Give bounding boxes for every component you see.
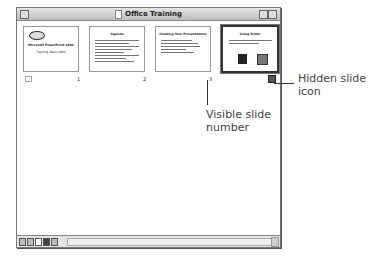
slide-number: 2 (143, 76, 146, 82)
document-icon (115, 10, 122, 19)
slide-thumbnail-2[interactable]: Agenda (89, 26, 145, 72)
hidden-slide-icon-label: Hidden slide icon (298, 72, 373, 98)
slide-thumbnail-3[interactable]: Creating Your Presentations (155, 26, 211, 72)
resize-grip[interactable] (271, 237, 279, 247)
slide-title: Microsoft PowerPoint 2001 (24, 43, 78, 47)
slide-title: Agenda (90, 32, 144, 36)
window-title: Office Training (17, 8, 280, 20)
slide-thumbnail-4-hidden[interactable]: Using Slides (221, 25, 279, 73)
slide-sorter-view-button[interactable] (43, 238, 50, 246)
slide-subtitle: Training Team 2001 (24, 50, 78, 54)
slide-number: 3 (209, 76, 212, 82)
window-title-text: Office Training (125, 10, 182, 18)
visible-slide-number-label: Visible slide number (206, 108, 278, 134)
transition-icon[interactable] (25, 76, 32, 82)
clipart-icon (257, 54, 268, 65)
callout-line-slide-number (207, 80, 208, 105)
callout-line-hidden-icon (274, 83, 294, 84)
zoom-box[interactable] (259, 10, 268, 19)
title-bar[interactable]: Office Training (17, 8, 280, 21)
normal-view-button[interactable] (19, 238, 26, 246)
hidden-slide-icon (268, 75, 276, 83)
horizontal-scrollbar[interactable] (67, 238, 272, 246)
slide-number: 1 (77, 76, 80, 82)
clipart-icon (238, 54, 247, 64)
logo-oval (29, 31, 45, 40)
view-bar (17, 235, 280, 247)
slide-show-button[interactable] (51, 238, 58, 246)
outline-view-button[interactable] (27, 238, 34, 246)
slide-view-button[interactable] (35, 238, 42, 246)
slide-title: Creating Your Presentations (156, 32, 210, 36)
slide-title: Using Slides (223, 32, 277, 36)
collapse-box[interactable] (268, 10, 277, 19)
slide-thumbnail-1[interactable]: Microsoft PowerPoint 2001 Training Team … (23, 26, 79, 72)
